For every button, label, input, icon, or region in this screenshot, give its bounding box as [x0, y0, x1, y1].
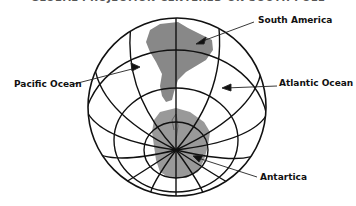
label-south-america: South America — [258, 15, 332, 25]
label-atlantic-ocean: Atlantic Ocean — [279, 78, 353, 88]
pacific-ocean-leader — [74, 68, 136, 84]
south-america-leader — [200, 22, 254, 42]
label-pacific-ocean: Pacific Ocean — [14, 79, 82, 89]
atlantic-ocean-leader — [225, 86, 277, 88]
atlantic-ocean-arrowhead — [222, 84, 231, 91]
label-antarctica: Antartica — [260, 172, 307, 182]
pacific-ocean-arrowhead — [131, 63, 140, 71]
